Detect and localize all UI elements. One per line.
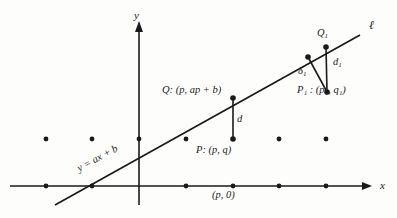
geometry-figure: y x ℓ y = ax + b Q: (p, ap + b) P: (p, q… xyxy=(0,0,397,218)
point-Q1 xyxy=(323,44,329,50)
point-foot-delta1 xyxy=(305,54,311,60)
p-zero-label: (p, 0) xyxy=(212,190,235,201)
line-ell xyxy=(55,35,360,205)
x-axis xyxy=(10,182,372,190)
point-Q xyxy=(230,95,236,101)
y-axis xyxy=(135,21,143,205)
x-axis-arrowhead xyxy=(362,182,372,190)
lattice-dot xyxy=(184,184,189,189)
point-P xyxy=(230,136,236,142)
lattice-dot xyxy=(44,184,49,189)
line-ell-label: ℓ xyxy=(369,19,374,31)
lattice-dot xyxy=(231,184,236,189)
segment-delta1-label: δ1 xyxy=(298,66,306,77)
x-axis-label: x xyxy=(380,180,385,191)
figure-canvas xyxy=(0,0,397,218)
segment-d1-label: d1 xyxy=(333,57,342,68)
lattice-dot xyxy=(44,137,49,142)
lattice-dot xyxy=(277,137,282,142)
point-Q-label: Q: (p, ap + b) xyxy=(162,85,221,96)
y-axis-label: y xyxy=(134,10,139,21)
point-P1-label: P₁ : (p₁, q₁) xyxy=(297,85,346,96)
lattice-dot xyxy=(184,137,189,142)
lattice-dot xyxy=(277,184,282,189)
lattice-dots-upper-row xyxy=(44,137,329,142)
point-Q1-subscript: 1 xyxy=(325,32,329,40)
y-axis-arrowhead xyxy=(135,21,143,32)
lattice-dot xyxy=(324,137,329,142)
lattice-dot xyxy=(90,184,95,189)
point-Q1-letter: Q xyxy=(317,27,325,38)
point-Q1-label: Q1 xyxy=(317,28,328,39)
segment-delta1-subscript: 1 xyxy=(303,70,307,78)
lattice-dot xyxy=(90,137,95,142)
lattice-dot xyxy=(137,137,142,142)
lattice-dot xyxy=(324,184,329,189)
segment-d1-subscript: 1 xyxy=(338,61,342,69)
point-P-label: P: (p, q) xyxy=(196,145,231,156)
segment-d-label: d xyxy=(237,114,242,125)
